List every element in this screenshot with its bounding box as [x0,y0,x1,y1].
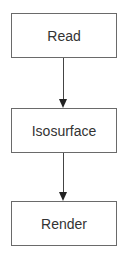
arrowhead-icon [59,192,67,201]
edge-isosurface-to-render [63,153,64,193]
node-isosurface: Isosurface [11,108,117,153]
node-label: Render [41,216,87,232]
node-read: Read [11,13,117,58]
node-label: Read [47,28,80,44]
arrowhead-icon [59,99,67,108]
node-render: Render [11,201,117,246]
edge-read-to-isosurface [63,58,64,100]
node-label: Isosurface [32,123,97,139]
